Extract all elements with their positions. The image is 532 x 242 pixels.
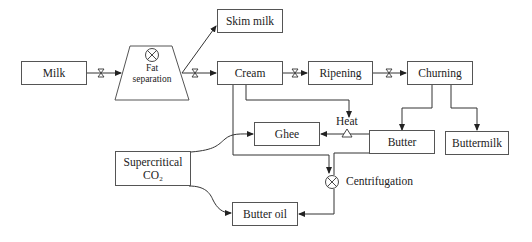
centrifuge-circle-x-icon <box>326 176 339 189</box>
butter-label: Butter <box>388 136 417 149</box>
heat-label: Heat <box>336 115 358 127</box>
ripening-label: Ripening <box>319 67 361 80</box>
buttermilk-label: Buttermilk <box>452 137 502 150</box>
fat-separation-line1: Fat <box>126 63 178 74</box>
ghee-node: Ghee <box>254 122 320 146</box>
supercritical-line2: CO₂ <box>143 169 163 182</box>
heat-triangle-icon <box>342 129 352 137</box>
skim-milk-label: Skim milk <box>226 15 274 28</box>
process-flow-diagram: Milk Fat separation Skim milk Cream Ripe… <box>0 0 532 242</box>
milk-label: Milk <box>43 67 65 80</box>
cream-node: Cream <box>217 61 283 85</box>
ghee-label: Ghee <box>275 128 299 141</box>
buttermilk-node: Buttermilk <box>445 131 509 155</box>
supercritical-line1: Supercritical <box>124 156 183 169</box>
butter-node: Butter <box>369 130 435 154</box>
fat-separation-line2: separation <box>126 74 178 85</box>
butter-oil-node: Butter oil <box>232 202 298 226</box>
cream-label: Cream <box>235 67 266 80</box>
fat-separation-label: Fat separation <box>126 63 178 85</box>
churning-node: Churning <box>407 61 473 85</box>
butter-oil-label: Butter oil <box>243 208 287 221</box>
churning-label: Churning <box>418 67 461 80</box>
separator-circle-x-icon <box>146 49 159 62</box>
skim-milk-node: Skim milk <box>217 9 283 33</box>
milk-node: Milk <box>21 61 87 85</box>
ripening-node: Ripening <box>308 61 373 85</box>
centrifugation-label: Centrifugation <box>346 175 413 187</box>
supercritical-co2-node: Supercritical CO₂ <box>115 151 191 186</box>
